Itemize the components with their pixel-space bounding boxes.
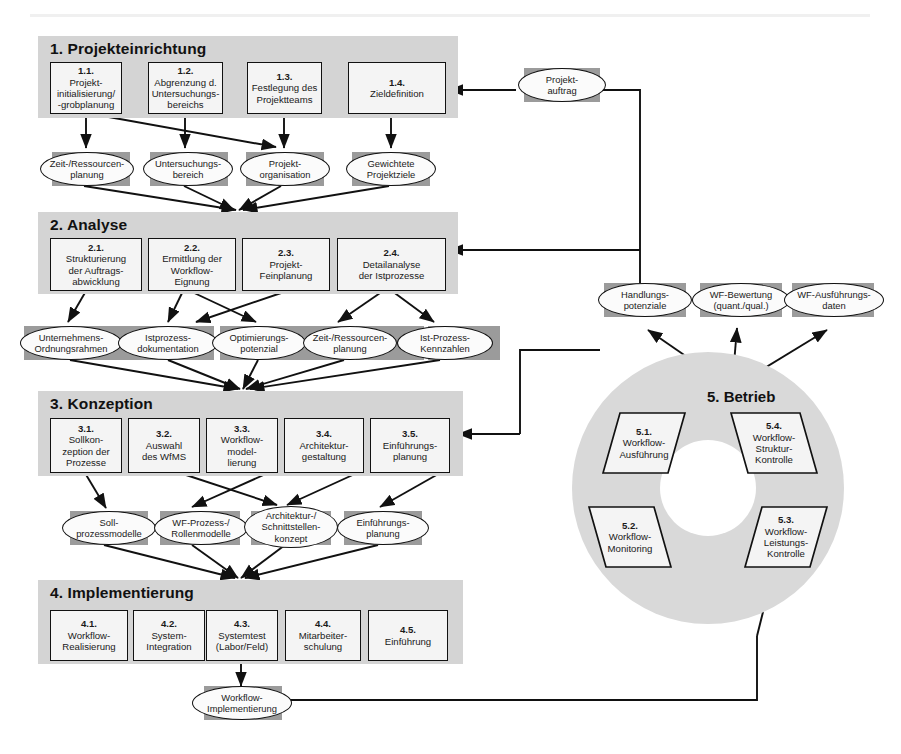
result-label-line: planung bbox=[366, 528, 399, 539]
result-ellipse-gewichtete-projektziele[interactable]: Gewichtete Projektziele bbox=[346, 152, 436, 186]
activity-label-line: Abgrenzung d. bbox=[154, 77, 216, 88]
phase-title-4: 4. Implementierung bbox=[50, 584, 194, 602]
result-label-line: organisation bbox=[259, 169, 310, 180]
activity-box-4-2[interactable]: 4.2. System- Integration bbox=[133, 610, 205, 661]
activity-label-line: des WfMS bbox=[142, 451, 186, 462]
activity-box-2-4[interactable]: 2.4. Detailanalyse der Istprozesse bbox=[337, 238, 446, 291]
activity-label-line: Ermittlung der bbox=[162, 253, 222, 264]
activity-label-line: Projektteams bbox=[257, 94, 313, 105]
activity-box-4-4[interactable]: 4.4. Mitarbeiter- schulung bbox=[285, 610, 361, 661]
result-label-line: potenziale bbox=[624, 300, 667, 311]
activity-box-1-1[interactable]: 1.1. Projekt- initialisierung/ -grobplan… bbox=[50, 62, 122, 114]
result-label-line: Optimierungs- bbox=[230, 332, 289, 343]
activity-label-line: Auswahl bbox=[146, 440, 182, 451]
activity-box-2-2[interactable]: 2.2. Ermittlung der Workflow- Eignung bbox=[148, 238, 236, 291]
result-ellipse-wf-bewertung[interactable]: WF-Bewertung (quant./qual.) bbox=[692, 283, 790, 317]
result-label-line: Zeit-/Ressourcen- bbox=[50, 158, 125, 169]
activity-box-1-2[interactable]: 1.2. Abgrenzung d. Untersuchungs- bereic… bbox=[148, 62, 223, 114]
phase-title-3: 3. Konzeption bbox=[50, 395, 153, 413]
activity-label-line: abwicklung bbox=[72, 276, 119, 287]
activity-box-4-5[interactable]: 4.5. Einführung bbox=[368, 610, 448, 661]
activity-box-4-1[interactable]: 4.1. Workflow- Realisierung bbox=[50, 610, 128, 661]
activity-label-line: Workflow- bbox=[171, 265, 213, 276]
activity-label-line: Einführungs- bbox=[383, 440, 437, 451]
activity-label-line: schulung bbox=[304, 641, 342, 652]
activity-label-line: gestaltung bbox=[302, 451, 346, 462]
input-ellipse-projektauftrag[interactable]: Projekt- auftrag bbox=[518, 68, 606, 102]
result-label-line: Istprozess- bbox=[145, 332, 191, 343]
operation-step-5-2[interactable]: 5.2. Workflow- Monitoring bbox=[588, 506, 672, 568]
result-label-line: planung bbox=[70, 169, 103, 180]
activity-label-line: Eignung bbox=[174, 276, 209, 287]
activity-label-line: System- bbox=[151, 630, 186, 641]
result-ellipse-handlungspotenziale[interactable]: Handlungs- potenziale bbox=[598, 283, 692, 317]
result-ellipse-einfuehrungsplanung[interactable]: Einführungs- planung bbox=[337, 511, 429, 545]
result-label-line: bereich bbox=[173, 169, 204, 180]
operation-step-5-4[interactable]: 5.4. Workflow- Struktur- Kontrolle bbox=[730, 412, 818, 474]
activity-number: 4.5. bbox=[400, 624, 416, 635]
result-ellipse-architektur-schnittstellenkonzept[interactable]: Architektur-/ Schnittstellen- konzept bbox=[244, 506, 338, 548]
result-ellipse-optimierungspotenzial[interactable]: Optimierungs- potenzial bbox=[212, 326, 306, 360]
activity-number: 3.1. bbox=[78, 423, 94, 434]
operation-step-5-3[interactable]: 5.3. Workflow- Leistungs- Kontrolle bbox=[744, 506, 828, 568]
result-ellipse-projektorganisation[interactable]: Projekt- organisation bbox=[240, 152, 330, 186]
step-number: 5.4. bbox=[760, 420, 788, 431]
result-label-line: Unternehmens- bbox=[39, 332, 104, 343]
diagram-canvas: 1. Projekteinrichtung 1.1. Projekt- init… bbox=[0, 0, 901, 754]
result-ellipse-zeit-ressourcenplanung[interactable]: Zeit-/Ressourcen- planung bbox=[40, 152, 134, 186]
result-label-line: Implementierung bbox=[207, 703, 277, 714]
result-ellipse-ist-prozess-kennzahlen[interactable]: Ist-Prozess- Kennzahlen bbox=[397, 326, 493, 360]
activity-number: 3.5. bbox=[402, 428, 418, 439]
operation-step-5-1[interactable]: 5.1. Workflow- Ausführung bbox=[602, 412, 686, 474]
activity-box-3-1[interactable]: 3.1. Sollkon- zeption der Prozesse bbox=[50, 418, 122, 473]
result-label-line: WF-Bewertung bbox=[710, 289, 773, 300]
activity-box-1-3[interactable]: 1.3. Festlegung des Projektteams bbox=[247, 62, 322, 114]
operation-title: 5. Betrieb bbox=[707, 388, 775, 405]
activity-box-3-3[interactable]: 3.3. Workflow- model- lierung bbox=[206, 418, 278, 473]
activity-label-line: Festlegung des bbox=[252, 82, 318, 93]
activity-box-2-3[interactable]: 2.3. Projekt- Feinplanung bbox=[242, 238, 330, 291]
activity-number: 1.4. bbox=[389, 77, 405, 88]
activity-number: 2.2. bbox=[184, 242, 200, 253]
step-label-line: Workflow- bbox=[759, 526, 813, 537]
step-label-line: Struktur- bbox=[750, 443, 799, 454]
result-ellipse-istprozess-dokumentation[interactable]: Istprozess- dokumentation bbox=[118, 326, 218, 360]
result-ellipse-wf-prozess-rollenmodelle[interactable]: WF-Prozess-/ Rollenmodelle bbox=[154, 511, 248, 545]
result-label-line: daten bbox=[822, 300, 845, 311]
result-label-line: Untersuchungs- bbox=[155, 158, 221, 169]
activity-label-line: Projekt- bbox=[69, 77, 102, 88]
activity-label-line: zeption der bbox=[62, 446, 109, 457]
activity-number: 1.2. bbox=[177, 65, 193, 76]
activity-label-line: Architektur- bbox=[299, 440, 348, 451]
activity-box-3-2[interactable]: 3.2. Auswahl des WfMS bbox=[128, 418, 200, 473]
activity-box-2-1[interactable]: 2.1. Strukturierung der Auftrags- abwick… bbox=[50, 238, 142, 291]
activity-box-1-4[interactable]: 1.4. Zieldefinition bbox=[348, 62, 446, 114]
result-ellipse-wf-ausfuehrungsdaten[interactable]: WF-Ausführungs- daten bbox=[784, 283, 884, 317]
result-label-line: planung bbox=[333, 343, 366, 354]
result-label-line: Einführungs- bbox=[356, 517, 409, 528]
activity-label-line: Zieldefinition bbox=[370, 88, 424, 99]
activity-box-3-4[interactable]: 3.4. Architektur- gestaltung bbox=[284, 418, 364, 473]
result-ellipse-zeit-ressourcenplanung-2[interactable]: Zeit-/Ressourcen- planung bbox=[303, 326, 397, 360]
activity-label-line: Workflow- bbox=[221, 434, 263, 445]
result-label-line: dokumentation bbox=[137, 343, 199, 354]
activity-number: 3.4. bbox=[316, 428, 332, 439]
result-ellipse-untersuchungsbereich[interactable]: Untersuchungs- bereich bbox=[143, 152, 233, 186]
step-label-line: Workflow- bbox=[747, 432, 801, 443]
result-label-line: Handlungs- bbox=[621, 289, 669, 300]
activity-label-line: Integration bbox=[146, 641, 191, 652]
result-ellipse-workflow-implementierung[interactable]: Workflow- Implementierung bbox=[192, 686, 292, 720]
result-label-line: Soll- bbox=[100, 517, 119, 528]
activity-box-3-5[interactable]: 3.5. Einführungs- planung bbox=[370, 418, 450, 473]
result-label-line: Projekt- bbox=[269, 158, 301, 169]
activity-number: 2.3. bbox=[278, 247, 294, 258]
result-ellipse-unternehmens-ordnungsrahmen[interactable]: Unternehmens- Ordnungsrahmen bbox=[20, 326, 122, 360]
input-label-line: Projekt- bbox=[546, 74, 578, 85]
result-ellipse-sollprozessmodelle[interactable]: Soll- prozessmodelle bbox=[62, 511, 156, 545]
step-label-line: Kontrolle bbox=[761, 548, 811, 559]
activity-label-line: Realisierung bbox=[62, 641, 115, 652]
activity-label-line: lierung bbox=[228, 457, 257, 468]
activity-box-4-3[interactable]: 4.3. Systemtest (Labor/Feld) bbox=[206, 610, 278, 661]
step-label-line: Workflow- bbox=[617, 437, 671, 448]
activity-number: 3.2. bbox=[156, 428, 172, 439]
